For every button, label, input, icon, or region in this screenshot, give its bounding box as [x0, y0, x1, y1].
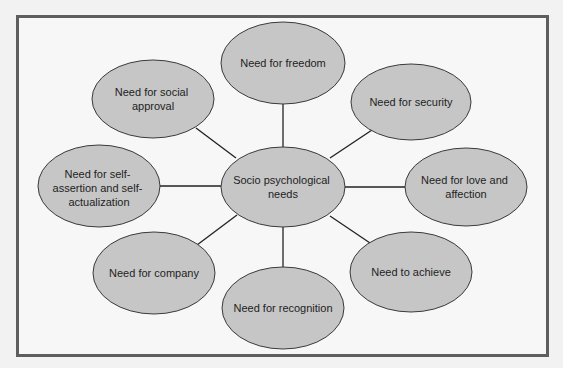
page: Need for freedom Need for social approva… — [0, 0, 563, 368]
node-need-for-security: Need for security — [351, 64, 471, 140]
node-need-for-self-assertion: Need for self- assertion and self- actua… — [38, 145, 160, 227]
node-socio-psychological-needs: Socio psychological needs — [221, 147, 345, 227]
node-label: Need for company — [109, 267, 199, 279]
connector-security — [330, 128, 375, 158]
node-label: assertion and self- — [53, 182, 143, 194]
node-label: approval — [132, 100, 174, 112]
connector-achieve — [330, 216, 373, 245]
connector-social — [196, 128, 236, 158]
node-label: actualization — [68, 196, 129, 208]
svg-text:Need for company: Need for company — [109, 267, 199, 279]
svg-text:Need for recognition: Need for recognition — [233, 302, 332, 314]
node-need-for-social-approval: Need for social approval — [92, 60, 214, 138]
svg-text:Need for freedom: Need for freedom — [240, 57, 326, 69]
svg-text:Need to achieve: Need to achieve — [371, 266, 451, 278]
node-label: Need for security — [369, 96, 453, 108]
node-label: Need for recognition — [233, 302, 332, 314]
node-label: Need for social — [115, 86, 188, 98]
node-label: Need for love and — [421, 174, 508, 186]
center-label: Socio psychological — [233, 174, 330, 186]
connector-company — [197, 215, 237, 245]
svg-text:Need for security: Need for security — [369, 96, 453, 108]
node-need-to-achieve: Need to achieve — [350, 232, 472, 312]
node-need-for-recognition: Need for recognition — [222, 267, 344, 349]
node-label: Need to achieve — [371, 266, 451, 278]
mind-map-diagram: Need for freedom Need for social approva… — [0, 0, 563, 368]
node-need-for-company: Need for company — [93, 232, 215, 314]
node-label: Need for freedom — [240, 57, 326, 69]
node-need-for-love-and-affection: Need for love and affection — [405, 148, 527, 226]
node-label: affection — [445, 188, 486, 200]
node-need-for-freedom: Need for freedom — [221, 22, 345, 104]
node-label: Need for self- — [64, 168, 130, 180]
center-label: needs — [268, 188, 298, 200]
